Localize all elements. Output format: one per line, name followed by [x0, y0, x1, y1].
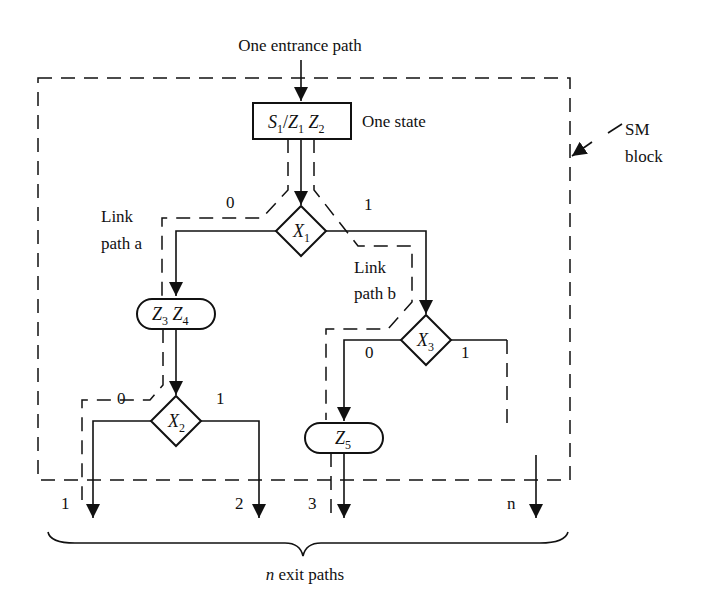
sm-block-pointer-tail — [608, 124, 622, 133]
exit-path-1 — [93, 421, 151, 518]
exit-label-n: n — [507, 494, 516, 513]
exit-paths-caption: n exit paths — [266, 565, 344, 584]
x2-branch-0: 0 — [117, 389, 126, 408]
link-path-a — [162, 139, 288, 298]
exit-label-3: 3 — [308, 494, 317, 513]
x3-branch-0: 0 — [365, 343, 374, 362]
state-annotation: One state — [362, 112, 426, 131]
exit-label-2: 2 — [235, 494, 244, 513]
link-path-b-line2: path b — [354, 284, 396, 303]
link-path-b — [314, 139, 412, 420]
exit-label-1: 1 — [61, 494, 70, 513]
x2-branch-1: 1 — [216, 389, 225, 408]
link-path-b-line1: Link — [354, 258, 387, 277]
exit-paths-brace — [48, 532, 568, 556]
x1-branch-1: 1 — [364, 195, 373, 214]
x1-branch-0: 0 — [226, 193, 235, 212]
link-path-a-continued — [82, 329, 163, 500]
sm-block-pointer-arrow — [572, 142, 592, 156]
link-path-a-line2: path a — [101, 234, 143, 253]
x3-branch-1: 1 — [461, 343, 470, 362]
x1-zero-path — [176, 231, 276, 296]
sm-block-label-line1: SM — [625, 120, 650, 139]
sm-block-diagram: One entrance path S1/Z1 Z2 One state SM … — [0, 0, 705, 605]
link-path-a-line1: Link — [101, 207, 134, 226]
entrance-label: One entrance path — [238, 36, 362, 55]
exit-path-2 — [201, 421, 259, 518]
sm-block-label-line2: block — [625, 147, 663, 166]
